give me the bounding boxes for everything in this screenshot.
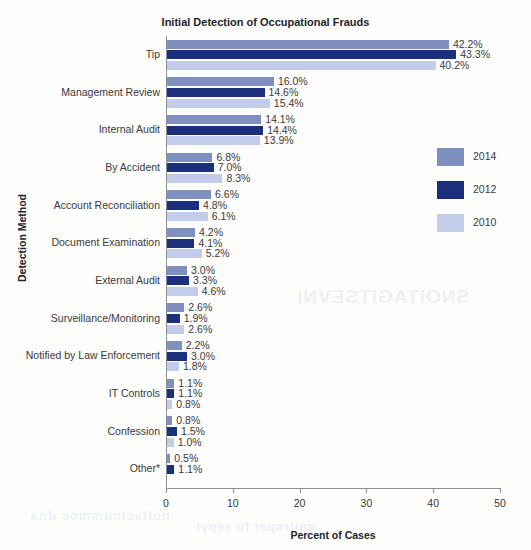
bar-2010	[167, 400, 172, 409]
bar-2014	[167, 379, 174, 388]
bar-2012	[167, 314, 180, 323]
bar-value-label: 6.1%	[212, 212, 236, 221]
bar-2012	[167, 88, 265, 97]
bar-2010	[167, 362, 179, 371]
category-label: Tip	[0, 48, 160, 60]
bar-2012	[167, 50, 456, 59]
bar-2014	[167, 115, 261, 124]
bar-2014	[167, 40, 449, 49]
bar-2010	[167, 325, 184, 334]
bar-value-label: 1.9%	[184, 314, 208, 323]
bar-2012	[167, 389, 174, 398]
bar-value-label: 1.1%	[178, 389, 202, 398]
bar-2014	[167, 416, 172, 425]
category-label: Surveillance/Monitoring	[0, 312, 160, 324]
bar-value-label: 15.4%	[274, 99, 304, 108]
bar-2014	[167, 454, 170, 463]
category-label: Notified by Law Enforcement	[0, 349, 160, 361]
bar-value-label: 1.5%	[181, 427, 205, 436]
x-tick-label: 50	[480, 497, 520, 509]
bar-value-label: 4.8%	[203, 201, 227, 210]
bar-value-label: 0.5%	[174, 454, 198, 463]
x-axis-line	[166, 488, 500, 489]
bar-value-label: 43.3%	[460, 50, 490, 59]
x-tick	[166, 488, 167, 493]
bar-2014	[167, 341, 182, 350]
bar-value-label: 2.6%	[188, 325, 212, 334]
category-label: External Audit	[0, 274, 160, 286]
bar-chart: Initial Detection of Occupational Frauds…	[0, 0, 531, 550]
x-tick	[233, 488, 234, 493]
x-tick-label: 10	[213, 497, 253, 509]
bar-value-label: 1.8%	[183, 362, 207, 371]
legend-swatch-icon	[437, 181, 464, 199]
bar-value-label: 4.6%	[202, 287, 226, 296]
plot-area: 01020304050 Tip42.2%43.3%40.2%Management…	[166, 36, 500, 488]
bar-2010	[167, 438, 174, 447]
category-label: IT Controls	[0, 387, 160, 399]
x-tick-label: 30	[346, 497, 386, 509]
bar-2010	[167, 99, 270, 108]
bar-value-label: 2.2%	[186, 341, 210, 350]
category-label: Other*	[0, 462, 160, 474]
bar-2010	[167, 174, 222, 183]
x-tick	[366, 488, 367, 493]
x-tick	[433, 488, 434, 493]
bar-value-label: 14.6%	[269, 88, 299, 97]
chart-title: Initial Detection of Occupational Frauds	[0, 16, 531, 28]
bar-2014	[167, 77, 274, 86]
bar-2012	[167, 163, 214, 172]
bar-value-label: 14.1%	[265, 115, 295, 124]
category-label: By Accident	[0, 161, 160, 173]
bar-2010	[167, 212, 208, 221]
bar-value-label: 1.1%	[178, 465, 202, 474]
bar-2012	[167, 427, 177, 436]
legend-label: 2014	[473, 150, 496, 162]
bar-2010	[167, 287, 198, 296]
bar-2012	[167, 276, 189, 285]
category-label: Confession	[0, 425, 160, 437]
bar-2012	[167, 126, 263, 135]
bar-2014	[167, 303, 184, 312]
x-tick-label: 40	[413, 497, 453, 509]
bar-2010	[167, 61, 436, 70]
category-label: Document Examination	[0, 236, 160, 248]
bar-2012	[167, 465, 174, 474]
bar-2014	[167, 153, 212, 162]
bar-2012	[167, 201, 199, 210]
bar-value-label: 8.3%	[226, 174, 250, 183]
x-tick-label: 20	[280, 497, 320, 509]
bar-value-label: 40.2%	[440, 61, 470, 70]
bar-value-label: 4.2%	[199, 228, 223, 237]
bar-2014	[167, 228, 195, 237]
legend-label: 2012	[473, 183, 496, 195]
bar-value-label: 3.3%	[193, 276, 217, 285]
legend-swatch-icon	[437, 148, 464, 166]
bar-value-label: 0.8%	[176, 400, 200, 409]
bar-value-label: 13.9%	[264, 136, 294, 145]
bar-2010	[167, 136, 260, 145]
category-label: Internal Audit	[0, 123, 160, 135]
x-tick	[500, 488, 501, 493]
x-axis-title: Percent of Cases	[166, 529, 500, 541]
x-tick-label: 0	[146, 497, 186, 509]
bar-2012	[167, 239, 194, 248]
category-label: Account Reconciliation	[0, 199, 160, 211]
bar-2010	[167, 249, 202, 258]
bar-value-label: 5.2%	[206, 249, 230, 258]
legend-swatch-icon	[437, 214, 464, 232]
bar-2014	[167, 266, 187, 275]
bar-value-label: 1.0%	[178, 438, 202, 447]
category-label: Management Review	[0, 86, 160, 98]
x-tick	[300, 488, 301, 493]
bar-value-label: 7.0%	[218, 163, 242, 172]
legend-label: 2010	[473, 216, 496, 228]
